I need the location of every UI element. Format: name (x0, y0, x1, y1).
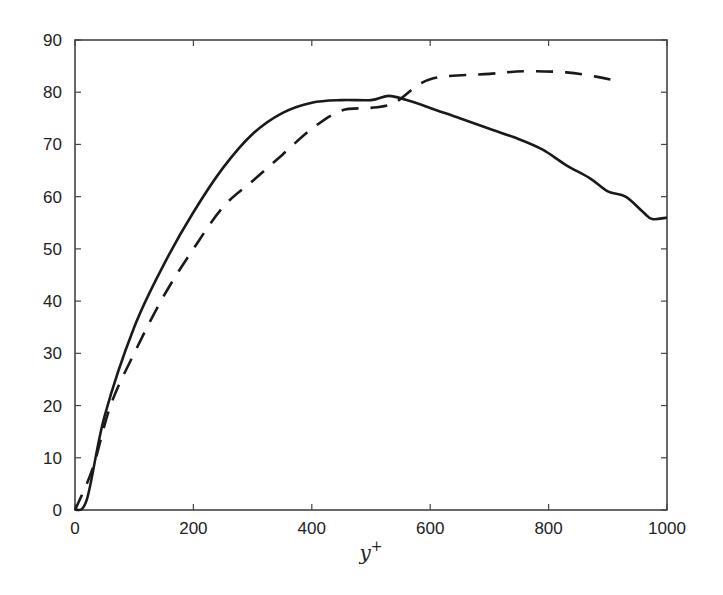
y-tick-label: 40 (43, 292, 62, 311)
x-axis-title-superscript: + (371, 538, 383, 554)
series-solid-line (75, 96, 667, 510)
x-tick-label: 1000 (648, 519, 686, 538)
x-axis-title: y+ (358, 538, 382, 565)
y-tick-label: 0 (53, 501, 62, 520)
x-tick-label: 400 (298, 519, 326, 538)
y-tick-label: 20 (43, 397, 62, 416)
plot-series (75, 71, 667, 510)
x-tick-label: 200 (179, 519, 207, 538)
y-tick-label: 70 (43, 135, 62, 154)
x-axis-title-base: y (358, 541, 371, 565)
y-tick-label: 90 (43, 31, 62, 50)
plot-axes (75, 40, 667, 510)
y-tick-label: 60 (43, 188, 62, 207)
x-tick-label: 0 (70, 519, 79, 538)
y-tick-label: 80 (43, 83, 62, 102)
tick-labels: 020040060080010000102030405060708090 (43, 31, 686, 538)
y-tick-label: 30 (43, 344, 62, 363)
plot-frame (75, 40, 667, 510)
y-tick-label: 50 (43, 240, 62, 259)
y-tick-label: 10 (43, 449, 62, 468)
series-dashed-line (75, 71, 614, 510)
x-tick-label: 800 (534, 519, 562, 538)
x-tick-label: 600 (416, 519, 444, 538)
line-chart: 020040060080010000102030405060708090 y+ (0, 0, 723, 595)
